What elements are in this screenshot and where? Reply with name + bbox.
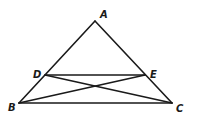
triangle-diagram: A D E B C xyxy=(0,0,197,124)
segments xyxy=(19,21,172,103)
segment-AB xyxy=(19,21,95,103)
label-C: C xyxy=(176,103,184,114)
label-A: A xyxy=(99,9,108,20)
label-D: D xyxy=(33,69,41,80)
label-E: E xyxy=(150,69,157,80)
segment-AC xyxy=(95,21,172,103)
label-B: B xyxy=(8,102,16,113)
vertex-labels: A D E B C xyxy=(8,9,184,114)
